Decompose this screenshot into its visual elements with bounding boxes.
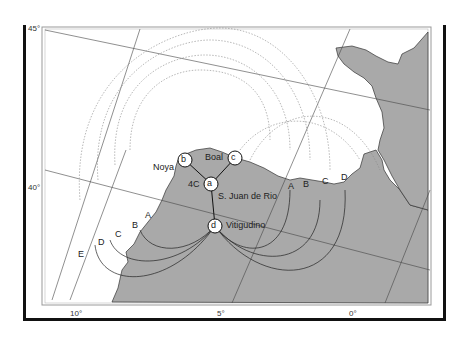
contour-east-d: D — [341, 172, 348, 182]
contour-west-b: B — [132, 220, 138, 230]
contour-east-b: B — [303, 179, 309, 189]
contour-west-e: E — [78, 249, 84, 259]
station-d-id: d — [211, 220, 216, 230]
contour-west-c: C — [115, 229, 122, 239]
lon-label-10: 10° — [70, 309, 82, 318]
lon-label-0: 0° — [349, 309, 357, 318]
site-label: 4C — [188, 179, 200, 189]
station-c-name: Boal — [205, 152, 223, 162]
contour-east-a: A — [288, 181, 294, 191]
lat-label-40: 40° — [28, 183, 40, 192]
contour-west-d: D — [98, 237, 105, 247]
station-d-name: Vitigudino — [226, 220, 265, 230]
station-a-id: a — [207, 178, 212, 188]
contour-east-c: C — [322, 176, 329, 186]
contour-west-a: A — [145, 210, 151, 220]
station-c-id: c — [231, 152, 236, 162]
station-a-name: S. Juan de Rio — [218, 191, 277, 201]
map-canvas — [0, 0, 453, 343]
lat-label-45: 45° — [28, 24, 40, 33]
station-b-id: b — [181, 154, 186, 164]
station-b-name: Noya — [153, 162, 174, 172]
lon-label-5: 5° — [217, 309, 225, 318]
